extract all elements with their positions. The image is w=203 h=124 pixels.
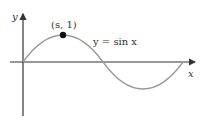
- y-axis-label: y: [11, 11, 18, 22]
- x-axis-label: x: [188, 68, 194, 79]
- max-point: [60, 32, 66, 38]
- equation-label: y = sin x: [92, 36, 137, 47]
- point-label: (s, 1): [51, 19, 77, 30]
- sine-graph: y x (s, 1) y = sin x: [0, 0, 203, 124]
